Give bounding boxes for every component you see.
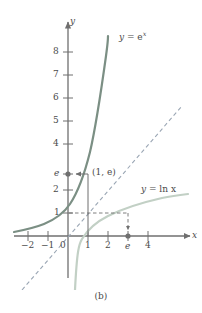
- x-tick-label-2: 2: [105, 241, 111, 250]
- y-tick-label-1: 1: [54, 208, 60, 217]
- x-tick-label-e: e: [125, 242, 130, 251]
- ln-curve-label-eq: = ln x: [146, 184, 176, 194]
- point-label-1-e: (1, e): [92, 168, 116, 177]
- figure-caption: (b): [0, 291, 202, 301]
- y-tick-label-6: 6: [53, 93, 59, 102]
- ln-curve-label: y = ln x: [141, 185, 176, 194]
- y-tick-label-e: e: [54, 169, 59, 178]
- x-tick-label-minus2: −2: [21, 241, 34, 250]
- y-tick-label-5: 5: [53, 116, 59, 125]
- exp-curve-label-exponent: x: [143, 30, 147, 38]
- y-tick-label-7: 7: [53, 70, 59, 79]
- exp-curve-label-eq: = e: [124, 32, 143, 42]
- point-marker-x-axis-e: [125, 233, 130, 238]
- y-tick-label-2: 2: [53, 185, 59, 194]
- exp-curve: [14, 36, 108, 232]
- figure-container: 8 7 6 5 4 e 2 1 −2 −1 0 1 2 e 4 y x y = …: [0, 0, 202, 313]
- point-marker-y-axis-e: [65, 171, 70, 176]
- y-tick-label-8: 8: [53, 47, 59, 56]
- y-tick-label-4: 4: [53, 139, 59, 148]
- x-tick-label-4: 4: [145, 241, 151, 250]
- y-axis-name-label: y: [70, 17, 75, 26]
- x-axis-name-label: x: [192, 231, 197, 240]
- x-tick-label-minus1: −1: [41, 241, 54, 250]
- x-tick-label-1: 1: [85, 241, 91, 250]
- ln-curve: [75, 194, 188, 290]
- exp-curve-label: y = ex: [119, 31, 146, 42]
- x-tick-label-0: 0: [60, 241, 66, 250]
